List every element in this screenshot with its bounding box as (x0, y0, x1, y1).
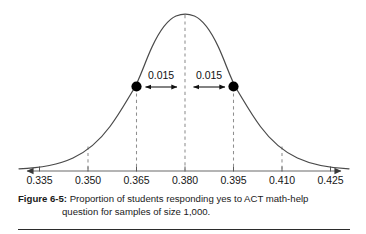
caption-divider-rule (18, 229, 350, 230)
figure-container: 0.015 0.015 0.335 0.350 0.365 0.380 0.39… (0, 0, 366, 234)
x-axis-tick-labels: 0.335 0.350 0.365 0.380 0.395 0.410 0.42… (0, 174, 366, 190)
annotation-layer: 0.015 0.015 (0, 0, 366, 196)
right-interval-label: 0.015 (179, 69, 239, 81)
figure-caption: Figure 6-5: Proportion of students respo… (18, 192, 352, 218)
caption-line-1: Proportion of students responding yes to… (67, 193, 308, 204)
caption-paragraph: Figure 6-5: Proportion of students respo… (18, 192, 352, 218)
x-tick-label-0425: 0.425 (301, 174, 361, 187)
figure-number: Figure 6-5: (18, 193, 67, 204)
caption-line-2: question for samples of size 1,000. (18, 205, 352, 218)
